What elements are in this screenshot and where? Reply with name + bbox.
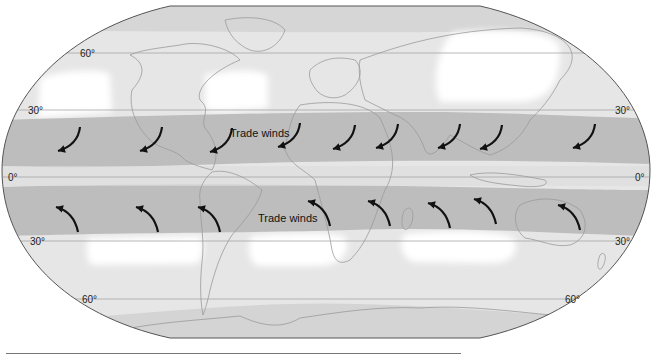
north-high-atlantic [205, 71, 268, 112]
equatorial-band [0, 166, 651, 186]
lat-label-30s-right: 30° [615, 236, 630, 247]
zone-layer [0, 0, 651, 358]
north-polar-band [0, 0, 651, 32]
north-high-pacific-east [38, 71, 112, 118]
lat-label-30n-left: 30° [28, 105, 43, 116]
lat-label-0-left: 0° [8, 172, 18, 183]
lat-label-60n-left: 60° [80, 48, 95, 59]
north-trade-wind-belt [0, 112, 651, 167]
bottom-rule [6, 353, 461, 354]
north-high-pacific-west [436, 30, 560, 102]
south-high-atlantic [249, 233, 347, 266]
trade-winds-label-south: Trade winds [258, 212, 318, 224]
south-trade-wind-belt [0, 185, 651, 236]
lat-label-60s-left: 60° [82, 294, 97, 305]
lat-label-30s-left: 30° [30, 236, 45, 247]
lat-label-0-right: 0° [635, 172, 645, 183]
lat-label-30n-right: 30° [615, 105, 630, 116]
south-high-pacific [87, 236, 203, 265]
world-map: 60° 30° 30° 0° 0° 30° 30° 60° 60° Trade … [0, 0, 651, 358]
lat-label-60s-right: 60° [565, 294, 580, 305]
trade-winds-label-north: Trade winds [230, 127, 290, 139]
south-high-indian [401, 232, 516, 264]
